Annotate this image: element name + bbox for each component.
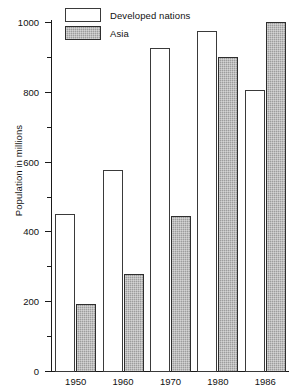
plot-area [0,0,295,391]
bar-1960-asia [124,274,144,372]
bar-1986-developed-nations [245,90,265,372]
legend-item-developed-nations: Developed nations [65,8,190,22]
y-tick-minor [47,336,51,337]
y-tick-minor [47,127,51,128]
bar-1950-asia [76,304,96,372]
bar-1986-asia [266,22,286,372]
y-tick-major [45,22,51,23]
legend-item-asia: Asia [65,26,190,40]
bar-1980-asia [218,57,238,372]
y-tick-label: 400 [0,226,42,237]
legend-swatch-developed-nations [65,8,101,22]
y-axis-line [51,20,52,372]
y-tick-major [45,162,51,163]
bar-chart: Population in millions 02004006008001000… [0,0,295,391]
y-tick-label: 200 [0,296,42,307]
legend-label-developed-nations: Developed nations [110,10,190,21]
legend-label-asia: Asia [110,28,129,39]
x-axis-label-1950: 1950 [65,376,86,387]
x-axis-label-1986: 1986 [255,376,276,387]
x-axis-line [51,371,289,372]
bar-1950-developed-nations [55,214,75,372]
legend-swatch-asia [65,26,101,40]
y-tick-label: 800 [0,86,42,97]
bar-1970-developed-nations [150,48,170,372]
chart-legend: Developed nations Asia [65,8,190,44]
y-tick-minor [47,57,51,58]
y-tick-major [45,231,51,232]
bar-1960-developed-nations [103,170,123,372]
bar-1980-developed-nations [197,31,217,372]
bar-1970-asia [171,216,191,372]
y-tick-major [45,371,51,372]
x-axis-label-1970: 1970 [160,376,181,387]
y-tick-minor [47,266,51,267]
y-tick-major [45,301,51,302]
x-axis-label-1960: 1960 [113,376,134,387]
y-tick-minor [47,197,51,198]
y-tick-major [45,92,51,93]
x-axis-label-1980: 1980 [207,376,228,387]
y-tick-label: 1000 [0,17,42,28]
y-tick-label: 600 [0,156,42,167]
y-tick-label: 0 [0,366,42,377]
